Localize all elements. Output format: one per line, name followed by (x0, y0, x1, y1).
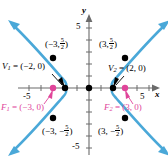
y-tick-label-5: 5 (76, 22, 81, 31)
x-tick-label-neg5: -5 (23, 92, 31, 101)
fraction-denominator: 2 (115, 131, 120, 138)
hyperbola-figure: y x 5 -5 -5 5 V1 = (−2, 0) V2 = (2, 0) F… (0, 0, 168, 167)
point-pos3-pos2.5 (122, 55, 128, 61)
point-neg3-neg2.5 (50, 115, 56, 121)
focus-label-f1-coords: = (−3, 0) (10, 102, 44, 112)
point-label-bottom-right-close: ) (120, 127, 123, 136)
point-label-bottom-right: (3, − 5 2 ) (98, 124, 123, 139)
point-label-bottom-left-close: ) (69, 127, 72, 136)
point-neg3-pos2.5 (50, 55, 56, 61)
x-axis-label: x (155, 90, 160, 99)
fraction-denominator: 2 (109, 44, 114, 51)
fraction-five-halves: 5 2 (115, 124, 120, 139)
x-tick-label-5: 5 (140, 92, 145, 101)
fraction-five-halves: 5 2 (60, 37, 65, 52)
point-pos3-neg2.5 (122, 115, 128, 121)
vertex-label-v2-coords: = (2, 0) (117, 63, 146, 73)
fraction-five-halves: 5 2 (109, 37, 114, 52)
point-label-top-left: (−3, 5 2 ) (45, 37, 68, 52)
fraction-denominator: 2 (64, 131, 69, 138)
fraction-denominator: 2 (60, 44, 65, 51)
arrow-lower-right (158, 146, 168, 156)
vertex-label-v1: V1 = (−2, 0) (2, 62, 45, 72)
vertex-label-v2: V2 = (2, 0) (108, 64, 146, 74)
arrow-upper-right (158, 20, 168, 30)
point-label-top-left-close: ) (65, 40, 68, 49)
focus-point-f2 (122, 85, 128, 91)
focus-label-f2-coords: = (3, 0) (113, 102, 142, 112)
vertex-label-v1-coords: = (−2, 0) (11, 61, 45, 71)
point-label-top-left-open: (−3, (45, 40, 60, 49)
origin-point (86, 85, 92, 91)
focus-label-f1: F1 = (−3, 0) (1, 103, 44, 113)
point-label-bottom-right-open: (3, − (98, 127, 115, 136)
point-label-top-right-close: ) (114, 40, 117, 49)
fraction-five-halves: 5 2 (64, 124, 69, 139)
y-tick-label-neg5: -5 (72, 142, 80, 151)
point-label-bottom-left-open: (−3, − (42, 127, 64, 136)
focus-point-f1 (50, 85, 56, 91)
point-label-top-right: (3, 5 2 ) (99, 37, 117, 52)
point-label-top-right-open: (3, (99, 40, 109, 49)
graph-canvas (0, 0, 168, 167)
focus-label-f2: F2 = (3, 0) (104, 103, 142, 113)
point-label-bottom-left: (−3, − 5 2 ) (42, 124, 72, 139)
y-axis-arrow (86, 14, 93, 22)
y-axis-label: y (82, 6, 86, 15)
